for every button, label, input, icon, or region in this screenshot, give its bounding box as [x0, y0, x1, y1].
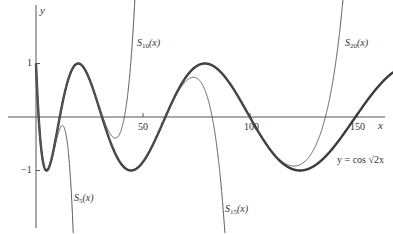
chart-plot-area: [0, 0, 393, 233]
s5-label-arg: (x): [83, 192, 94, 203]
s15-label-arg: (x): [237, 203, 248, 214]
y-tick-label-neg1: −1: [21, 165, 32, 175]
s10-label-arg: (x): [149, 37, 160, 48]
series-s15-x-: [36, 64, 225, 234]
y-tick-label-1: 1: [27, 58, 32, 68]
s5-label: S5(x): [74, 193, 94, 205]
x-tick-label-100: 100: [244, 122, 259, 132]
x-tick-label-50: 50: [138, 122, 148, 132]
s10-label: S10(x): [137, 38, 160, 50]
series-s20-x-: [36, 0, 343, 170]
x-axis-label: x: [378, 120, 383, 131]
s20-label: S20(x): [345, 38, 368, 50]
s20-label-arg: (x): [357, 37, 368, 48]
s10-label-sub: 10: [142, 42, 149, 50]
main-curve-label: y = cos √2x: [337, 155, 384, 165]
s20-label-sub: 20: [350, 42, 357, 50]
series-s10-x-: [36, 0, 135, 170]
y-axis-label: y: [40, 5, 45, 16]
s15-label-sub: 15: [230, 208, 237, 216]
s15-label: S15(x): [225, 204, 248, 216]
x-tick-label-150: 150: [350, 122, 365, 132]
axes: [8, 5, 385, 228]
